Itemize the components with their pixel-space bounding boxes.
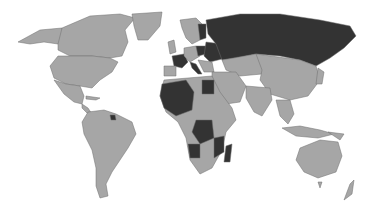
world-map [0, 0, 388, 219]
tasmania [318, 182, 322, 188]
south-america [82, 110, 136, 198]
world-map-svg [0, 0, 388, 219]
australia [296, 140, 342, 178]
madagascar [224, 144, 232, 162]
iberia [164, 66, 176, 76]
egypt [202, 80, 214, 94]
uk [168, 40, 176, 54]
papua [328, 132, 344, 140]
greenland [132, 12, 162, 40]
cuba [86, 96, 100, 100]
southeast-asia [276, 100, 294, 124]
new-zealand [344, 180, 354, 200]
north-america [18, 12, 162, 114]
canada [58, 14, 135, 58]
mozambique-tanzania [214, 136, 224, 158]
suriname [110, 115, 116, 120]
indonesia [282, 126, 334, 138]
oceania [296, 132, 354, 200]
balkans [198, 60, 214, 72]
south-america-land [82, 110, 136, 198]
angola [188, 144, 200, 158]
west-sahel-block [160, 80, 194, 116]
india [246, 86, 272, 116]
